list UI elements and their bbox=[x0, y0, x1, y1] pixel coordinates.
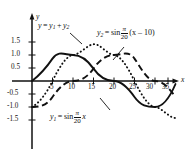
sum-term2-subscript: 2 bbox=[67, 24, 70, 30]
x-tick-label-25: 25 bbox=[129, 84, 136, 91]
leader-line-y1 bbox=[100, 98, 110, 110]
y1-sin-function: sin bbox=[64, 112, 73, 121]
x-tick-label-20: 20 bbox=[109, 84, 116, 91]
y2-argument: (x – 10) bbox=[129, 28, 154, 37]
y-tick-label-neg0.5: -0.5 bbox=[7, 90, 18, 97]
leader-line-sum bbox=[70, 33, 82, 44]
sum-lhs: y bbox=[38, 21, 42, 30]
y2-sin-function: sin bbox=[111, 28, 120, 37]
y2-fraction-numerator: π bbox=[121, 26, 128, 33]
y1-lhs-subscript: 1 bbox=[54, 116, 57, 122]
y1-pi-over-20-fraction: π20 bbox=[74, 110, 81, 125]
y2-fraction-denominator: 20 bbox=[121, 33, 128, 41]
annotation-y2-equation: y2=sinπ20(x – 10) bbox=[97, 26, 155, 41]
trig-addition-of-ordinates-figure: y x 1.5 1.0 0.5 -0.5 -1.0 -1.5 5 10 15 2… bbox=[0, 0, 190, 153]
y-tick-label-neg1.5: -1.5 bbox=[7, 116, 18, 123]
y2-equals: = bbox=[105, 28, 110, 37]
x-tick-label-5: 5 bbox=[50, 84, 54, 91]
y1-fraction-denominator: 20 bbox=[74, 117, 81, 125]
x-axis-arrowhead bbox=[173, 79, 180, 84]
y-tick-label-1.5: 1.5 bbox=[11, 38, 20, 45]
x-tick-label-15: 15 bbox=[88, 84, 95, 91]
y-tick-label-0.5: 0.5 bbox=[11, 64, 20, 71]
sum-equals: = bbox=[43, 21, 48, 30]
y-tick-label-1.0: 1.0 bbox=[11, 51, 20, 58]
annotation-sum-equation: y=y1+y2 bbox=[38, 22, 69, 31]
y-tick-label-neg1.0: -1.0 bbox=[7, 103, 18, 110]
annotation-y1-equation: y1=sinπ20x bbox=[50, 110, 86, 125]
leader-line-y2 bbox=[113, 47, 124, 60]
x-tick-label-10: 10 bbox=[68, 84, 75, 91]
x-tick-label-35: 35 bbox=[162, 84, 169, 91]
y2-lhs-subscript: 2 bbox=[101, 32, 104, 38]
plot-canvas bbox=[0, 0, 190, 153]
sum-plus: + bbox=[57, 21, 62, 30]
y1-fraction-numerator: π bbox=[74, 110, 81, 117]
y2-pi-over-20-fraction: π20 bbox=[121, 26, 128, 41]
x-axis-label: x bbox=[181, 76, 184, 84]
x-tick-label-30: 30 bbox=[146, 84, 153, 91]
y1-argument: x bbox=[82, 112, 86, 121]
y-axis-label: y bbox=[36, 13, 39, 21]
sum-term1-subscript: 1 bbox=[53, 24, 56, 30]
y1-equals: = bbox=[58, 112, 63, 121]
y-axis-arrowhead bbox=[30, 13, 35, 20]
